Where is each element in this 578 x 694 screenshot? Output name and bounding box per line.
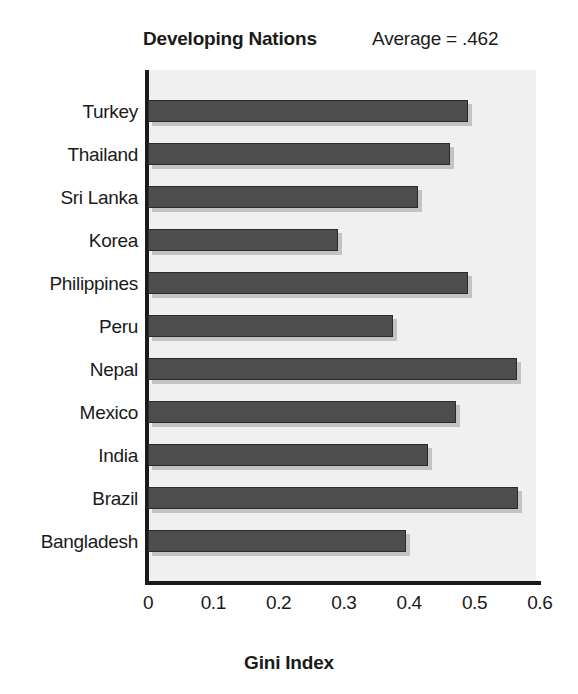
bar-row: Korea — [0, 228, 578, 271]
bar-category-label: Thailand — [0, 144, 138, 166]
chart-figure: Developing Nations Average = .462 Turkey… — [0, 0, 578, 694]
bar-row: Thailand — [0, 142, 578, 185]
bar-category-label: Turkey — [0, 101, 138, 123]
bar-fill — [148, 143, 450, 165]
bar-category-label: Philippines — [0, 273, 138, 295]
bar-row: India — [0, 443, 578, 486]
bar-category-label: Mexico — [0, 402, 138, 424]
bar-fill — [148, 315, 393, 337]
bar-category-label: Sri Lanka — [0, 187, 138, 209]
x-axis-tick-label: 0.4 — [397, 592, 422, 614]
bar-row: Nepal — [0, 357, 578, 400]
chart-average-annotation: Average = .462 — [372, 28, 498, 50]
bar-fill — [148, 358, 517, 380]
chart-title: Developing Nations — [143, 28, 317, 50]
x-axis-line — [145, 581, 541, 585]
bar-row: Turkey — [0, 99, 578, 142]
bar-fill — [148, 530, 406, 552]
bar-fill — [148, 444, 428, 466]
x-axis-tick-label: 0.1 — [201, 592, 226, 614]
bar-fill — [148, 229, 338, 251]
x-axis-tick-label: 0 — [143, 592, 153, 614]
bar-row: Brazil — [0, 486, 578, 529]
bar-row: Sri Lanka — [0, 185, 578, 228]
bar-fill — [148, 401, 456, 423]
bar-row: Mexico — [0, 400, 578, 443]
x-axis-tick-label: 0.3 — [331, 592, 356, 614]
bar-fill — [148, 487, 518, 509]
bar-category-label: Peru — [0, 316, 138, 338]
chart-header: Developing Nations Average = .462 — [0, 28, 578, 54]
bar-category-label: Nepal — [0, 359, 138, 381]
bar-category-label: Brazil — [0, 488, 138, 510]
bar-row: Peru — [0, 314, 578, 357]
bar-row: Philippines — [0, 271, 578, 314]
x-axis-tick-label: 0.6 — [527, 592, 552, 614]
x-axis-title: Gini Index — [0, 652, 578, 674]
x-axis-tick-label: 0.5 — [462, 592, 487, 614]
bar-category-label: Bangladesh — [0, 531, 138, 553]
bar-row: Bangladesh — [0, 529, 578, 572]
bar-category-label: Korea — [0, 230, 138, 252]
x-axis-tick-label: 0.2 — [266, 592, 291, 614]
bar-category-label: India — [0, 445, 138, 467]
bar-fill — [148, 186, 418, 208]
x-axis-ticks: 00.10.20.30.40.50.6 — [0, 592, 578, 620]
bar-fill — [148, 272, 468, 294]
bar-fill — [148, 100, 468, 122]
